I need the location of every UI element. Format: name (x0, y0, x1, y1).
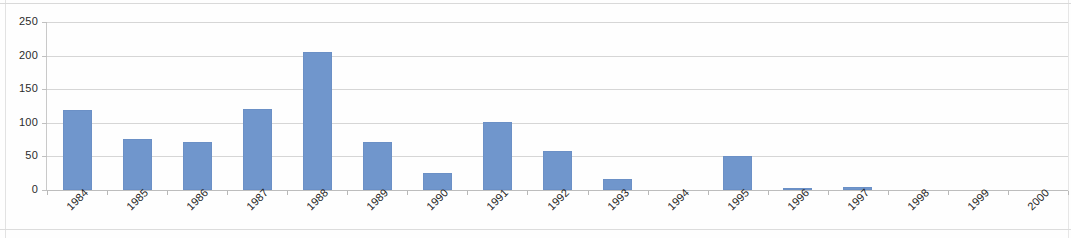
x-axis-label-1996: 1996 (785, 186, 811, 212)
x-axis-label-1986: 1986 (184, 186, 210, 212)
x-axis-label-2000: 2000 (1025, 186, 1051, 212)
x-axis-label-1998: 1998 (905, 186, 931, 212)
x-axis-label-1988: 1988 (304, 186, 330, 212)
x-axis-label-1995: 1995 (725, 186, 751, 212)
x-axis-label-1991: 1991 (484, 186, 510, 212)
x-axis-label-1985: 1985 (124, 186, 150, 212)
x-axis-label-1990: 1990 (424, 186, 450, 212)
x-axis-label-1999: 1999 (965, 186, 991, 212)
x-axis-label-1993: 1993 (605, 186, 631, 212)
x-axis-tick-labels: 1984198519861987198819891990199119921993… (0, 0, 1071, 238)
bar-chart-figure: 050100150200250 198419851986198719881989… (0, 0, 1071, 238)
x-axis-label-1992: 1992 (545, 186, 571, 212)
x-axis-label-1997: 1997 (845, 186, 871, 212)
x-axis-label-1987: 1987 (244, 186, 270, 212)
x-axis-label-1984: 1984 (64, 186, 90, 212)
x-axis-label-1989: 1989 (364, 186, 390, 212)
x-axis-label-1994: 1994 (665, 186, 691, 212)
